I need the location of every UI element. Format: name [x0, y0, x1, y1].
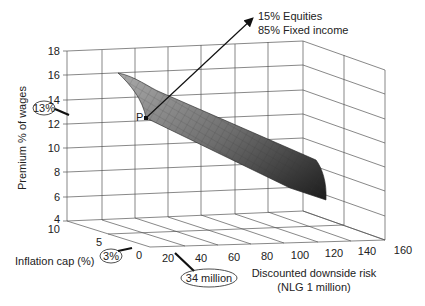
x-axis-ticks: 20 40 60 80 100 120 140 160: [162, 244, 412, 264]
z-axis-label: Premium % of wages: [16, 86, 28, 190]
z-axis-ticks: 18 16 14 12 10 8 6 4: [48, 45, 67, 225]
svg-text:18: 18: [48, 45, 60, 57]
svg-text:8: 8: [54, 166, 60, 178]
svg-text:6: 6: [54, 191, 60, 203]
y-axis-label: Inflation cap (%): [15, 255, 94, 267]
svg-text:40: 40: [195, 252, 207, 264]
svg-text:80: 80: [261, 250, 273, 262]
svg-text:13%: 13%: [33, 102, 55, 114]
floor-grid: [67, 211, 385, 247]
svg-text:3%: 3%: [103, 250, 119, 262]
efficient-frontier-surface: [118, 73, 326, 200]
svg-text:10: 10: [48, 142, 60, 154]
svg-text:12: 12: [48, 118, 60, 130]
annotation-inflation: 3%: [100, 248, 132, 263]
svg-text:5: 5: [96, 236, 102, 248]
svg-text:20: 20: [162, 252, 174, 264]
svg-text:34 million: 34 million: [186, 272, 232, 284]
right-wall-grid: [303, 41, 385, 240]
svg-text:10: 10: [48, 223, 60, 235]
svg-text:85% Fixed income: 85% Fixed income: [258, 24, 349, 36]
svg-text:15% Equities: 15% Equities: [258, 10, 323, 22]
svg-text:0: 0: [136, 249, 142, 261]
svg-text:140: 140: [358, 245, 376, 257]
svg-text:60: 60: [228, 251, 240, 263]
annotation-premium: 13%: [33, 101, 69, 115]
x-axis-label: Discounted downside risk: [252, 267, 377, 279]
surface-chart: 18 16 14 12 10 8 6 4 10 5 0 20 40 60 80 …: [0, 0, 425, 306]
svg-text:P: P: [136, 111, 143, 123]
svg-text:100: 100: [291, 249, 309, 261]
svg-text:120: 120: [325, 247, 343, 259]
svg-text:160: 160: [394, 244, 412, 256]
x-axis-sublabel: (NLG 1 million): [277, 281, 350, 293]
svg-text:16: 16: [48, 69, 60, 81]
